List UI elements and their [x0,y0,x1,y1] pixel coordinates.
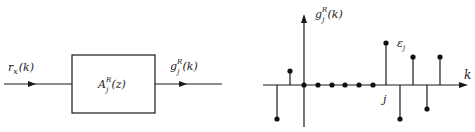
x-axis-arrow-icon [459,82,468,88]
stem-point [329,82,334,87]
stem-plot: gRj(k) k j εj [263,6,471,127]
stem-point [424,106,429,111]
stem-point [342,82,347,87]
epsilon-annotation: εj [397,37,406,52]
input-arrow-icon [28,81,36,87]
stem-point [410,54,415,59]
x-axis-label: k [464,68,471,82]
y-axis-arrow-icon [301,14,307,23]
stem-point [397,116,402,121]
stem-point [301,82,306,87]
index-j-label: j [380,93,387,106]
stem-point [437,54,442,59]
stem-point [315,82,320,87]
stem-point [383,40,388,45]
stem-point [287,68,292,73]
filter-label: ARj(z) [97,76,126,94]
block-diagram: rx(k) ARj(z) gRj(k) [4,55,222,113]
stem-point [274,116,279,121]
stem-point [356,82,361,87]
y-axis-label: gRj(k) [315,6,343,24]
diagram-canvas: rx(k) ARj(z) gRj(k) gRj(k) k j εj [0,0,475,132]
input-label: rx(k) [8,61,34,76]
stems [274,40,442,121]
output-arrow-icon [179,81,187,87]
stem-point [370,82,375,87]
output-label: gRj(k) [170,58,198,76]
